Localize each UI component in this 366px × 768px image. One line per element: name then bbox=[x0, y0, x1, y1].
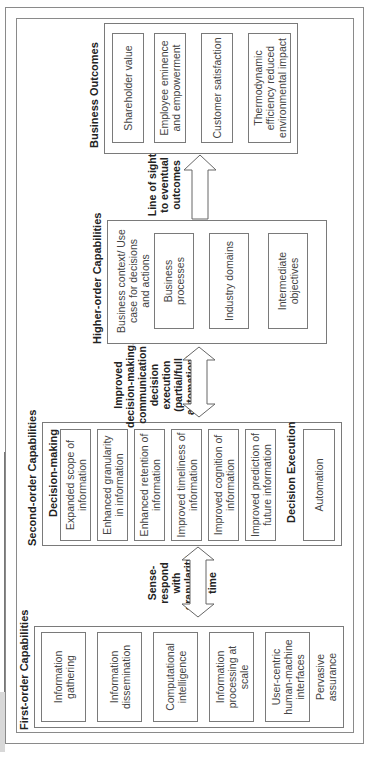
second-order-box: Decision-making Expanded scope of inform… bbox=[42, 422, 342, 546]
higher-order-item: Industry domains bbox=[209, 233, 249, 329]
decision-making-item: Improved timeliness of information bbox=[171, 429, 202, 541]
first-order-item: Computational intelligence bbox=[153, 632, 198, 722]
higher-order-item: Intermediate objectives bbox=[268, 233, 308, 329]
double-arrow-icon bbox=[181, 346, 217, 418]
decision-making-item: Enhanced granularity in information bbox=[97, 429, 128, 541]
higher-order-title: Higher-order Capabilities bbox=[91, 213, 103, 344]
first-order-box: Information gathering Information dissem… bbox=[34, 626, 344, 728]
first-order-item: Information dissemination bbox=[97, 632, 142, 722]
business-outcome-item: Employee eminence and empowerment bbox=[154, 33, 186, 143]
business-outcome-item: Thermodynamic efficiency reduced environ… bbox=[248, 33, 291, 143]
decision-making-item: Improved prediction of future informatio… bbox=[245, 429, 276, 541]
higher-order-context: Business context/ Use case for decisions… bbox=[112, 227, 154, 335]
business-outcomes-title: Business Outcomes bbox=[88, 42, 100, 148]
higher-order-box: Business context/ Use case for decisions… bbox=[107, 220, 327, 344]
business-outcome-item: Shareholder value bbox=[112, 33, 144, 143]
decision-making-item: Expanded scope of information bbox=[60, 429, 91, 541]
diagram-canvas: First-order Capabilities Information gat… bbox=[0, 0, 366, 768]
double-arrow-icon bbox=[180, 546, 216, 618]
right-arrow-icon bbox=[182, 154, 218, 220]
arrow3-label: Line of sight to eventual outcomes bbox=[146, 150, 182, 220]
decision-execution-title: Decision Execution bbox=[285, 422, 297, 523]
decision-making-item: Enhanced retention of information bbox=[134, 429, 165, 541]
second-order-title: Second-order Capabilities bbox=[26, 410, 38, 546]
decision-making-item: Improved cognition of information bbox=[208, 429, 239, 541]
first-order-extra: Pervasive assurance bbox=[311, 647, 341, 707]
business-outcomes-box: Shareholder value Employee eminence and … bbox=[104, 23, 298, 154]
first-order-title: First-order Capabilities bbox=[18, 610, 30, 730]
business-outcome-item: Customer satisfaction bbox=[201, 33, 233, 143]
higher-order-item: Business processes bbox=[154, 233, 194, 329]
first-order-item: Information gathering bbox=[41, 632, 86, 722]
first-order-item: Information processing at scale bbox=[209, 632, 254, 722]
decision-execution-item: Automation bbox=[303, 429, 335, 541]
decision-making-title: Decision-making bbox=[47, 429, 59, 517]
first-order-item: User-centric human-machine interfaces bbox=[265, 632, 310, 722]
